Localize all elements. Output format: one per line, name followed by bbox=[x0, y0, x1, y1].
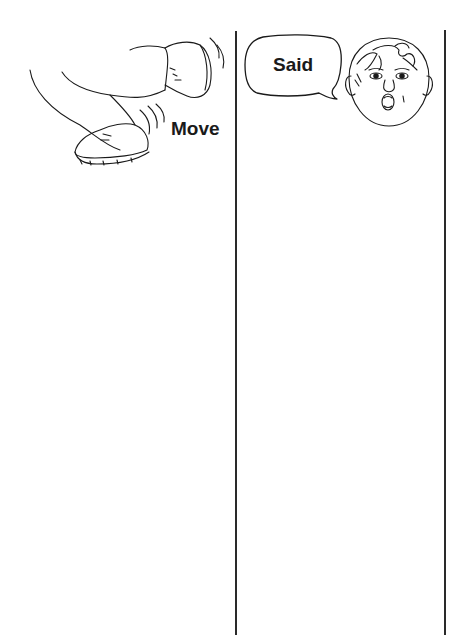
walking-feet-icon bbox=[25, 30, 225, 170]
said-label: Said bbox=[273, 54, 313, 76]
speaking-child-face-icon bbox=[343, 36, 435, 128]
move-label: Move bbox=[171, 118, 220, 140]
column-divider-right bbox=[444, 30, 446, 635]
column-divider-left bbox=[235, 31, 237, 635]
